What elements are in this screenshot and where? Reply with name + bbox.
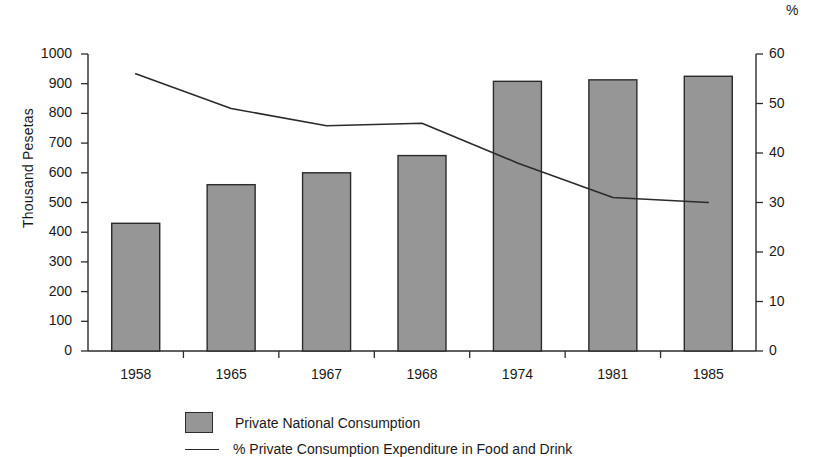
y-axis-right-tick-label: 0 — [769, 342, 809, 358]
legend-item-bar: Private National Consumption — [185, 412, 420, 433]
bar-1985 — [684, 76, 732, 351]
legend-line-label: % Private Consumption Expenditure in Foo… — [233, 441, 572, 457]
bars-layer — [112, 76, 733, 351]
y-axis-right-tick-label: 40 — [769, 144, 809, 160]
legend-item-line: % Private Consumption Expenditure in Foo… — [185, 441, 572, 457]
legend-line-swatch-icon — [185, 449, 219, 450]
bar-1965 — [207, 185, 255, 351]
x-axis-tick-label: 1968 — [382, 366, 462, 382]
legend-bar-label: Private National Consumption — [235, 415, 420, 431]
y-axis-left-tick-label: 800 — [20, 104, 72, 120]
y-axis-left-tick-label: 500 — [20, 194, 72, 210]
y-axis-right-tick-label: 60 — [769, 45, 809, 61]
bar-1967 — [303, 173, 351, 351]
y-axis-left-tick-label: 200 — [20, 283, 72, 299]
bar-1974 — [493, 81, 541, 351]
legend-bar-swatch-icon — [185, 412, 213, 433]
x-axis-tick-label: 1985 — [668, 366, 748, 382]
x-axis-tick-label: 1981 — [573, 366, 653, 382]
y-axis-left-tick-label: 400 — [20, 223, 72, 239]
y-axis-left-tick-label: 700 — [20, 134, 72, 150]
bar-1981 — [589, 80, 637, 351]
x-axis-tick-label: 1967 — [287, 366, 367, 382]
y-axis-right-tick-label: 30 — [769, 194, 809, 210]
y-axis-right-tick-label: 50 — [769, 95, 809, 111]
y-axis-left-tick-label: 900 — [20, 75, 72, 91]
y-axis-left-tick-label: 100 — [20, 312, 72, 328]
y-axis-left-tick-label: 300 — [20, 253, 72, 269]
bar-1958 — [112, 223, 160, 351]
y-axis-right-tick-label: 20 — [769, 243, 809, 259]
y-axis-left-tick-label: 1000 — [20, 45, 72, 61]
bar-1968 — [398, 156, 446, 351]
y-axis-right-tick-label: 10 — [769, 293, 809, 309]
x-axis-tick-label: 1965 — [191, 366, 271, 382]
y-axis-left-tick-label: 0 — [20, 342, 72, 358]
x-axis-tick-label: 1974 — [477, 366, 557, 382]
x-axis-tick-label: 1958 — [96, 366, 176, 382]
y-axis-left-tick-label: 600 — [20, 164, 72, 180]
